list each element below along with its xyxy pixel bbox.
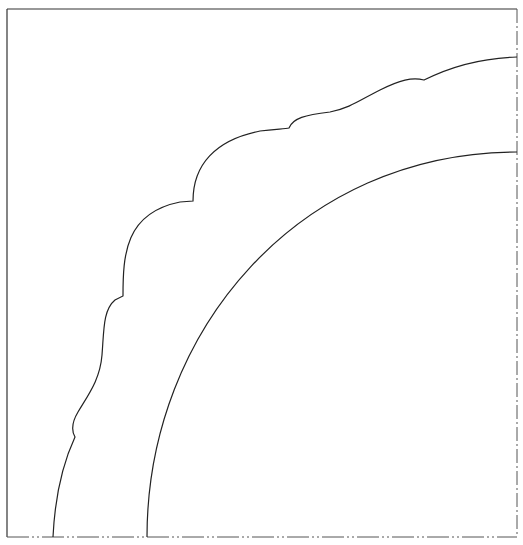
inner-arc xyxy=(147,152,517,537)
technical-drawing xyxy=(0,0,523,545)
outer-scalloped-contour xyxy=(53,57,517,537)
